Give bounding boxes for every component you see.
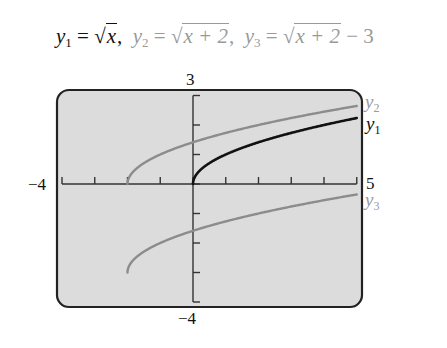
label-y3-sub: 3 — [373, 199, 379, 213]
ymin-label: −4 — [178, 309, 196, 329]
label-y1: y1 — [366, 113, 380, 138]
label-y3: y3 — [365, 189, 379, 214]
xmin-label: −4 — [28, 175, 46, 195]
label-y1-sub: 1 — [374, 123, 380, 137]
calculator-screen-frame — [57, 90, 362, 307]
ymax-label: 3 — [186, 70, 195, 90]
plot-area — [0, 0, 447, 348]
